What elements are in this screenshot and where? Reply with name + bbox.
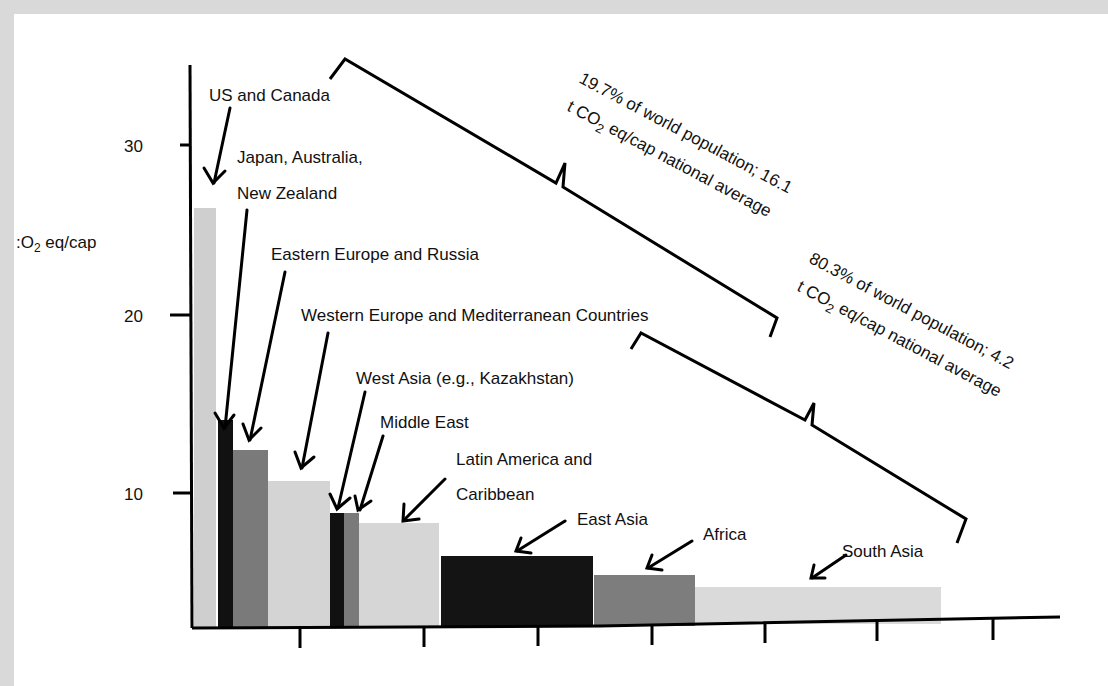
bar-japan-australia-nz <box>218 420 233 628</box>
label-western-europe: Western Europe and Mediterranean Countri… <box>301 306 648 325</box>
arrow-latin-america-icon <box>403 479 445 521</box>
arrow-western-europe-icon <box>295 333 328 468</box>
brace-high-emitters-icon <box>330 59 777 337</box>
label-africa: Africa <box>703 525 747 544</box>
brace-low-emitters-icon <box>631 333 966 543</box>
label-latin-line2: Caribbean <box>456 485 534 504</box>
y-axis <box>190 65 192 628</box>
label-japan-line2: New Zealand <box>237 184 337 203</box>
label-eastern-europe: Eastern Europe and Russia <box>271 245 479 264</box>
label-us-canada: US and Canada <box>209 86 331 105</box>
bar-us-canada <box>194 208 216 628</box>
arrow-east-asia-icon <box>516 521 565 553</box>
bar-east-asia <box>441 556 593 626</box>
y-tick-20: 20 <box>124 307 143 326</box>
arrow-africa-icon <box>647 541 692 570</box>
y-tick-30: 30 <box>124 137 143 156</box>
bar-eastern-europe-russia <box>233 450 268 628</box>
arrow-japan-icon <box>215 210 247 428</box>
bar-middle-east <box>344 513 359 628</box>
chart-canvas: 30 20 10 :O2 eq/cap US and Canada Japan,… <box>0 0 1108 686</box>
braces <box>330 59 966 543</box>
label-japan-line1: Japan, Australia, <box>237 148 363 167</box>
bar-south-asia <box>695 587 941 624</box>
arrow-eastern-europe-icon <box>243 272 285 440</box>
label-east-asia: East Asia <box>577 510 648 529</box>
label-south-asia: South Asia <box>842 542 924 561</box>
label-west-asia: West Asia (e.g., Kazakhstan) <box>356 369 574 388</box>
arrow-us-canada-icon <box>204 108 230 183</box>
label-middle-east: Middle East <box>380 413 469 432</box>
y-tick-10: 10 <box>124 485 143 504</box>
bar-west-asia <box>330 513 344 628</box>
label-latin-line1: Latin America and <box>456 450 592 469</box>
arrow-west-asia-icon <box>330 392 365 509</box>
arrow-south-asia-icon <box>811 555 846 578</box>
bar-latin-america <box>359 523 439 628</box>
y-axis-label: :O2 eq/cap <box>16 233 96 255</box>
arrow-middle-east-icon <box>355 436 383 510</box>
bar-western-europe <box>268 481 330 628</box>
bar-africa <box>594 575 695 626</box>
